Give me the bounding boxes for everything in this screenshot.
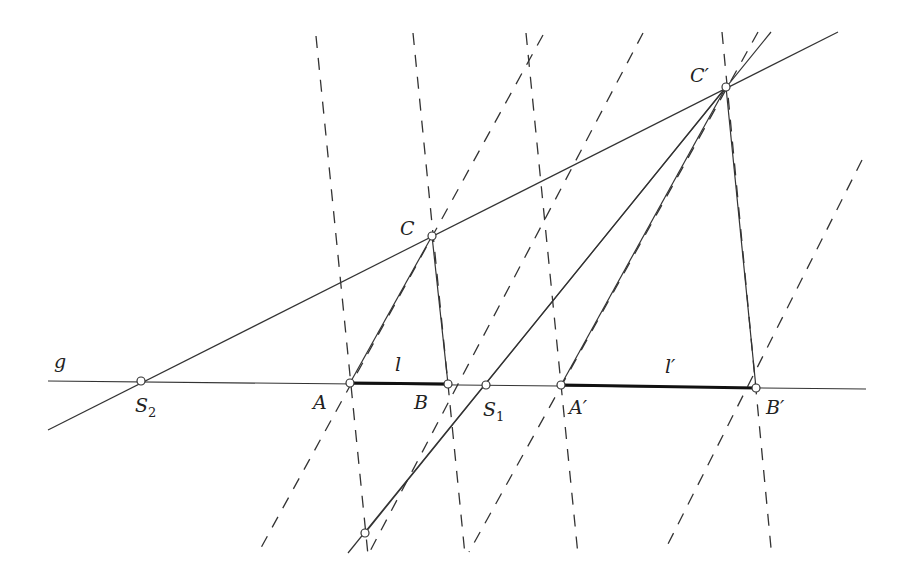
label-S2: S2 — [135, 396, 156, 419]
label-g: g — [54, 352, 66, 371]
dash-7 — [469, 32, 758, 552]
dash-5 — [257, 35, 543, 555]
label-l: l — [395, 355, 401, 374]
segment-l — [350, 383, 448, 384]
label-S1: S1 — [483, 400, 504, 423]
label-S1-sub: 1 — [496, 409, 504, 424]
label-C: C — [400, 219, 415, 238]
segment-l-prime — [561, 385, 756, 388]
seg-P-Cprime — [365, 87, 726, 533]
dash-2 — [413, 33, 465, 555]
label-A: A — [313, 393, 327, 412]
label-S2-sub: 2 — [148, 405, 156, 420]
seg-Bprime-Cprime — [726, 87, 756, 388]
point-c-prime — [722, 83, 730, 91]
label-S1-letter: S — [483, 398, 496, 420]
label-l-prime: l′ — [665, 357, 675, 376]
point-s2 — [137, 377, 145, 385]
label-B: B — [414, 393, 428, 412]
geometry-diagram — [0, 0, 909, 585]
point-a-prime — [557, 381, 565, 389]
label-A-prime: A′ — [569, 398, 587, 417]
point-a — [346, 379, 354, 387]
label-B-prime: B′ — [766, 398, 784, 417]
dash-1 — [316, 36, 368, 555]
seg-A-C — [350, 236, 432, 383]
seg-B-C — [432, 236, 448, 384]
points — [137, 83, 760, 537]
label-S2-letter: S — [135, 394, 148, 416]
seg-Aprime-Cprime — [561, 87, 726, 385]
label-C-prime: C′ — [690, 66, 709, 85]
point-p — [361, 529, 369, 537]
point-b-prime — [752, 384, 760, 392]
line-S2-C-Cprime — [48, 32, 838, 430]
dash-3 — [526, 33, 578, 555]
point-c — [428, 232, 436, 240]
point-b — [444, 380, 452, 388]
point-s1 — [482, 381, 490, 389]
dash-8 — [664, 160, 862, 552]
